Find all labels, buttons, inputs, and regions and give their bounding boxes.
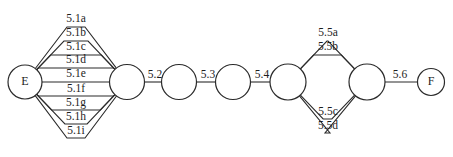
node-E[interactable]: E [8,65,42,99]
node-label-E: E [21,74,28,88]
node-n1[interactable] [110,65,145,100]
edge-label-5-1a: 5.1a [66,12,85,24]
edge-label-5-4: 5.4 [255,68,270,80]
node-n2[interactable] [162,65,197,100]
edge-label-5-1d: 5.1d [66,53,86,65]
network-graph: EF 5.1a5.1b5.1c5.1d5.1e5.1f5.1g5.1h5.1i5… [0,0,453,157]
edge-label-5-5b: 5.5b [318,40,338,52]
edge-label-5-1g: 5.1g [66,96,86,109]
edge-label-5-6: 5.6 [393,68,408,80]
edge-label-5-5c: 5.5c [318,105,337,117]
edge-label-5-1b: 5.1b [66,26,86,38]
edge-label-5-5a: 5.5a [318,26,337,38]
node-circle-n1[interactable] [110,65,145,100]
node-n3[interactable] [216,65,251,100]
edge-5-5b[interactable] [300,55,354,69]
edge-label-5-1h: 5.1h [66,110,86,122]
edge-label-5-1e: 5.1e [66,67,85,79]
node-n5[interactable] [349,64,385,100]
node-label-F: F [428,74,435,88]
node-circle-n5[interactable] [349,64,385,100]
node-circle-n4[interactable] [270,64,306,100]
diagram-canvas: EF 5.1a5.1b5.1c5.1d5.1e5.1f5.1g5.1h5.1i5… [0,0,453,157]
edge-label-5-3: 5.3 [201,68,216,80]
node-circle-n3[interactable] [216,65,251,100]
edge-label-5-1c: 5.1c [66,40,85,52]
node-n4[interactable] [270,64,306,100]
edge-label-5-1f: 5.1f [67,82,85,94]
node-circle-n2[interactable] [162,65,197,100]
edge-label-5-1i: 5.1i [67,124,85,136]
edge-label-5-5d: 5.5d [318,119,338,131]
node-F[interactable]: F [418,69,445,96]
edge-label-5-2: 5.2 [148,68,163,80]
